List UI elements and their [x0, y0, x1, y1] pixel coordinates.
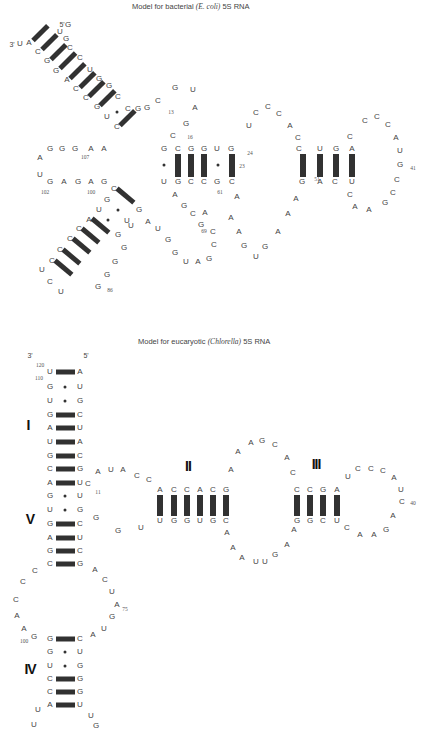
nucleotide: A [284, 454, 289, 462]
position-number: 41 [410, 165, 416, 171]
nucleotide: A [157, 486, 162, 494]
nucleotide: A [86, 216, 91, 224]
nucleotide: C [374, 113, 380, 121]
base-pair-bond [188, 154, 194, 177]
nucleotide: A [114, 601, 119, 609]
nucleotide: G [115, 231, 121, 239]
nucleotide: G [75, 178, 81, 186]
nucleotide: A [391, 474, 396, 482]
nucleotide: A [92, 566, 97, 574]
nucleotide: A [14, 612, 19, 620]
nucleotide: G [165, 236, 171, 244]
gu-pair-dot [64, 665, 67, 668]
nucleotide: C [155, 97, 161, 105]
nucleotide: G [135, 105, 141, 113]
nucleotide: C [390, 189, 396, 197]
position-number: 24 [247, 150, 253, 156]
gu-pair-dot [116, 111, 119, 114]
strand-end-label: 3' [27, 352, 32, 359]
title-suffix: 5S RNA [241, 337, 270, 346]
nucleotide: G [47, 648, 53, 656]
nucleotide: G [223, 486, 229, 494]
position-number: 86 [107, 287, 113, 293]
nucleotide: G [95, 283, 101, 291]
nucleotide: U [88, 712, 94, 720]
nucleotide: G [294, 517, 300, 525]
nucleotide: G [383, 526, 389, 534]
nucleotide: A [64, 76, 69, 84]
base-pair-bond [56, 426, 75, 431]
nucleotide: A [349, 145, 354, 153]
nucleotide: U [157, 517, 163, 525]
nucleotide: U [47, 662, 53, 670]
base-pair-bond [61, 248, 81, 266]
nucleotide: U [214, 145, 220, 153]
nucleotide: C [347, 133, 353, 141]
nucleotide: A [195, 258, 200, 266]
position-number: 13 [168, 109, 174, 115]
base-pair-bond [56, 637, 75, 642]
nucleotide: C [35, 48, 41, 56]
nucleotide: G [77, 675, 83, 683]
nucleotide: C [362, 117, 368, 125]
nucleotide: A [26, 39, 31, 47]
title-prefix: Model for eucaryotic [138, 337, 208, 346]
gu-pair-dot [217, 164, 220, 167]
base-pair-bond [223, 495, 229, 516]
position-number: 61 [217, 189, 223, 195]
nucleotide: U [398, 486, 404, 494]
nucleotide: C [111, 185, 117, 193]
gu-pair-dot [117, 209, 120, 212]
nucleotide: C [125, 105, 131, 113]
nucleotide: U [108, 466, 114, 474]
nucleotide: A [172, 191, 177, 199]
base-pair-bond [201, 154, 207, 177]
position-number: 16 [187, 134, 193, 140]
nucleotide: A [390, 512, 395, 520]
nucleotide: U [334, 517, 340, 525]
nucleotide: G [397, 161, 403, 169]
base-pair-bond [317, 154, 323, 177]
base-pair-bond [197, 495, 203, 516]
nucleotide: U [31, 721, 37, 729]
nucleotide: C [13, 596, 19, 604]
domain-label: I [27, 417, 30, 433]
position-number: 100 [87, 189, 95, 195]
position-number: 40 [410, 500, 416, 506]
nucleotide: G [241, 242, 247, 250]
nucleotide: G [53, 67, 59, 75]
nucleotide: C [77, 452, 83, 460]
position-number: 110 [35, 375, 43, 381]
title-suffix: 5S RNA [220, 2, 249, 11]
nucleotide: A [371, 531, 376, 539]
nucleotide: C [290, 469, 296, 477]
base-pair-bond [300, 154, 306, 177]
nucleotide: A [47, 534, 52, 542]
base-pair-bond [56, 703, 75, 708]
nucleotide: C [265, 103, 271, 111]
base-pair-bond [349, 154, 355, 177]
nucleotide: U [77, 534, 83, 542]
base-pair-bond [56, 467, 75, 472]
nucleotide: C [73, 85, 79, 93]
position-number: 51 [314, 176, 320, 182]
nucleotide: C [399, 498, 405, 506]
nucleotide: C [175, 145, 181, 153]
nucleotide: A [228, 466, 233, 474]
nucleotide: G [77, 397, 83, 405]
nucleotide: C [188, 178, 194, 186]
nucleotide: U [104, 113, 110, 121]
nucleotide: C [114, 123, 120, 131]
position-number: 120 [36, 362, 44, 368]
position-number: 69 [201, 228, 207, 234]
nucleotide: G [77, 560, 83, 568]
nucleotide: C [294, 486, 300, 494]
nucleotide: U [317, 145, 323, 153]
nucleotide: G [262, 243, 268, 251]
nucleotide: G [63, 35, 69, 43]
base-pair-bond [56, 562, 75, 567]
nucleotide: G [333, 145, 339, 153]
nucleotide: C [332, 178, 338, 186]
nucleotide: U [77, 383, 83, 391]
nucleotide: A [334, 486, 339, 494]
